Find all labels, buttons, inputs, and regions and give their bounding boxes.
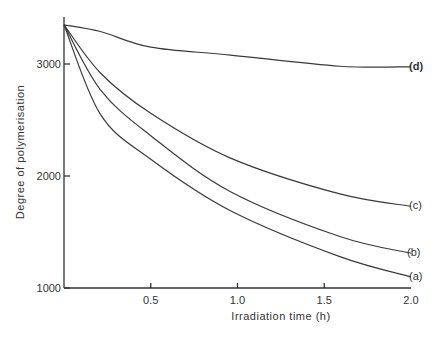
series-line-a bbox=[64, 25, 411, 277]
chart: 0.51.01.52.0100020003000 (d)(c)(b)(a) Ir… bbox=[0, 0, 447, 341]
y-axis-title: Degree of polymerisation bbox=[14, 85, 26, 219]
y-tick-label: 3000 bbox=[37, 58, 61, 70]
x-tick-label: 1.0 bbox=[230, 294, 245, 306]
x-tick-label: 1.5 bbox=[317, 294, 332, 306]
series-line-c bbox=[64, 25, 411, 206]
series-label-c: (c) bbox=[409, 199, 422, 211]
x-tick-label: 0.5 bbox=[143, 294, 158, 306]
y-tick-label: 2000 bbox=[37, 170, 61, 182]
y-tick-label: 1000 bbox=[37, 282, 61, 294]
series-line-b bbox=[64, 25, 411, 253]
x-tick-label: 2.0 bbox=[403, 294, 418, 306]
series-line-d bbox=[64, 25, 411, 67]
series-label-a: (a) bbox=[409, 270, 422, 282]
series-label-d: (d) bbox=[409, 60, 423, 72]
series-label-b: (b) bbox=[407, 246, 420, 258]
axes bbox=[64, 17, 411, 288]
x-axis-title: Irradiation time (h) bbox=[231, 310, 330, 322]
